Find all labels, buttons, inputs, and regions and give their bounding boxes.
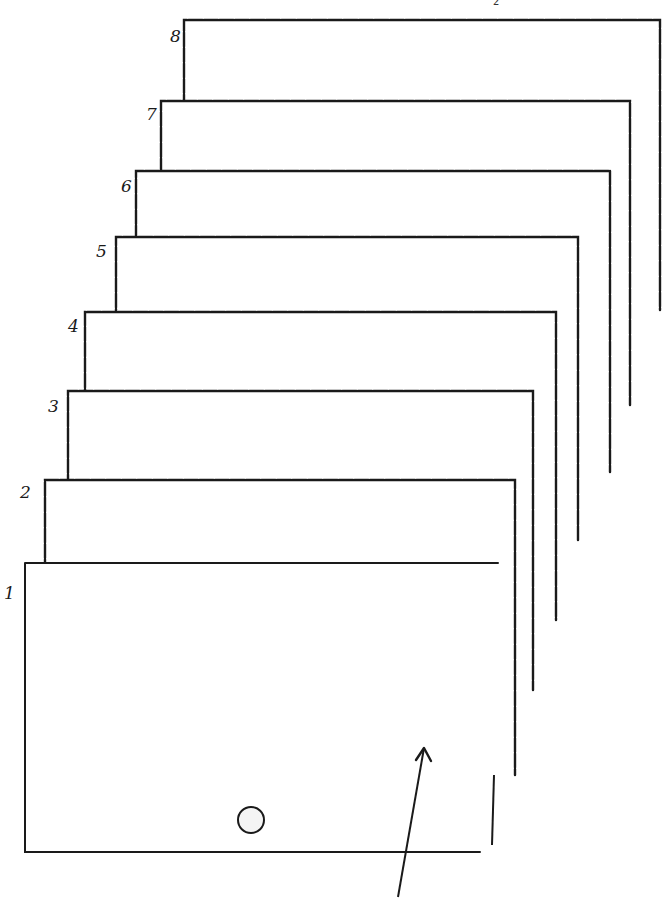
sheet-label-7: 7 <box>146 106 157 123</box>
page-number: 2 <box>493 0 499 7</box>
sheet-label-8: 8 <box>170 28 181 45</box>
hole-circle <box>238 807 264 833</box>
sheet-label-1: 1 <box>4 585 15 602</box>
sheet-label-3: 3 <box>48 398 59 415</box>
sheet-label-2: 2 <box>20 484 31 501</box>
sheet-label-4: 4 <box>68 318 79 335</box>
stacked-sheets-diagram <box>0 0 669 905</box>
sheet-label-6: 6 <box>121 178 132 195</box>
sheet-label-5: 5 <box>96 243 107 260</box>
sheet-1 <box>25 563 498 852</box>
